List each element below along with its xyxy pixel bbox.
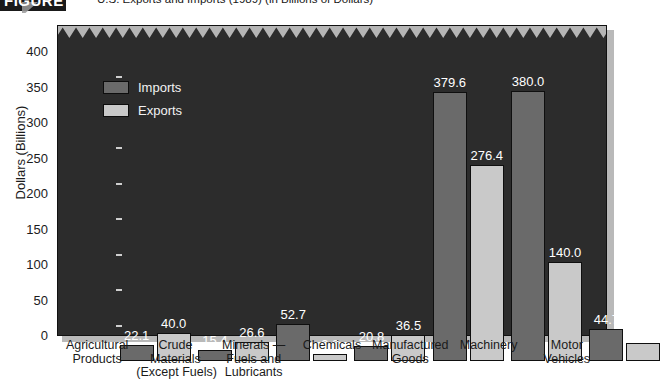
bar-group: 379.6276.4: [429, 63, 507, 361]
legend-swatch-exports: [103, 104, 129, 117]
x-axis-category-line: Materials: [136, 353, 214, 367]
x-axis-category-labels: AgriculturalProductsCrudeMaterials(Excep…: [58, 339, 606, 386]
bar-group: 380.0140.0: [507, 63, 585, 361]
x-axis-category-line: Manufactured: [371, 339, 449, 353]
y-axis-tick-label-350: 350: [26, 79, 48, 94]
chart-legend: ImportsExports: [103, 78, 233, 124]
figure-number: FIGURE 18-1: [4, 0, 100, 9]
bar-value-label: 380.0: [505, 74, 551, 89]
legend-swatch-imports: [103, 81, 129, 94]
bar-imports[interactable]: [511, 91, 545, 361]
legend-item-imports[interactable]: Imports: [103, 78, 233, 97]
chart-plot-area: 22.140.015.426.652.79.820.836.5379.6276.…: [57, 25, 607, 336]
legend-label-exports: Exports: [138, 103, 182, 118]
x-axis-category-line: Minerals —: [215, 339, 293, 353]
sawtooth-decoration: [58, 26, 606, 38]
x-axis-category-line: Chemicals: [293, 339, 371, 353]
bar-group: 20.836.5: [351, 63, 429, 361]
x-axis-category-label: MotorVehicles: [528, 339, 606, 366]
x-axis-category-label: ManufacturedGoods: [371, 339, 449, 366]
bar-exports[interactable]: [470, 165, 504, 361]
figure-title: U.S. Exports and Imports (1989) (in Bill…: [97, 0, 373, 5]
x-axis-category-line: Goods: [371, 353, 449, 367]
legend-label-imports: Imports: [138, 80, 181, 95]
bar-value-label: 140.0: [542, 245, 588, 260]
x-axis-category-label: Machinery: [449, 339, 527, 353]
x-axis-category-line: Products: [58, 353, 136, 367]
y-axis-tick-label-200: 200: [26, 186, 48, 201]
y-axis-tick-label-250: 250: [26, 150, 48, 165]
bar-value-label: 276.4: [464, 148, 510, 163]
bar-group: 52.79.8: [273, 63, 351, 361]
y-axis-title: Dollars (Billions): [13, 73, 28, 233]
y-axis-tick-label-300: 300: [26, 115, 48, 130]
x-axis-category-line: Machinery: [449, 339, 527, 353]
figure-header: FIGURE 18-1 U.S. Exports and Imports (19…: [0, 0, 625, 13]
y-axis-tick-label-0: 0: [41, 328, 48, 343]
x-axis-category-line: Motor: [528, 339, 606, 353]
y-axis-tick-label-400: 400: [26, 44, 48, 59]
legend-item-exports[interactable]: Exports: [103, 101, 233, 120]
bar-value-label: 36.5: [385, 318, 431, 333]
y-axis-tick-label-50: 50: [34, 292, 48, 307]
bar-value-label: 52.7: [270, 307, 316, 322]
x-axis-category-line: Agricultural: [58, 339, 136, 353]
x-axis-category-label: AgriculturalProducts: [58, 339, 136, 366]
bar-value-label: 379.6: [427, 75, 473, 90]
bar-group: 44.725.5: [586, 63, 664, 361]
x-axis-category-line: (Except Fuels): [136, 366, 214, 380]
x-axis-category-line: Lubricants: [215, 366, 293, 380]
bar-imports[interactable]: [433, 92, 467, 361]
bar-value-label: 25.5: [620, 326, 664, 341]
y-axis-tick-label-100: 100: [26, 257, 48, 272]
x-axis-category-line: Vehicles: [528, 353, 606, 367]
y-axis-tick-label-150: 150: [26, 221, 48, 236]
x-axis-category-line: Fuels and: [215, 353, 293, 367]
y-axis: Dollars (Billions) 050100150200250300350…: [0, 25, 57, 336]
x-axis-category-label: CrudeMaterials(Except Fuels): [136, 339, 214, 380]
x-axis-category-label: Minerals —Fuels andLubricants: [215, 339, 293, 380]
x-axis-category-line: Crude: [136, 339, 214, 353]
x-axis-category-label: Chemicals: [293, 339, 371, 353]
bar-exports[interactable]: [626, 343, 660, 361]
bar-value-label: 40.0: [151, 316, 197, 331]
